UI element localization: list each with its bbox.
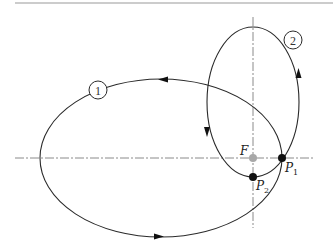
arrow-right-icon xyxy=(154,234,164,240)
orbit-2-label: 2 xyxy=(284,31,302,49)
svg-text:1: 1 xyxy=(95,84,101,98)
p1-label: P1 xyxy=(284,161,298,177)
svg-text:2: 2 xyxy=(290,34,296,48)
p2-label: P2 xyxy=(255,179,269,195)
arrow-left-icon xyxy=(158,77,168,83)
orbit-1-label: 1 xyxy=(89,81,107,99)
orbit-diagram: 1 2 F P1 P2 xyxy=(0,0,333,250)
focus-point xyxy=(249,154,257,162)
focus-label: F xyxy=(239,144,249,158)
arrow-up-icon xyxy=(296,68,302,78)
arrow-down-icon xyxy=(204,127,210,137)
